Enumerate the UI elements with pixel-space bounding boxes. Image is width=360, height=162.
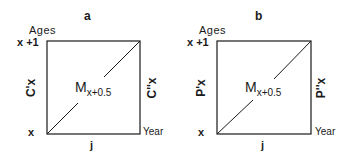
bottom-age-label: x <box>28 127 34 138</box>
center-label: Mx+0.5 <box>75 80 111 98</box>
left-side-label: C'x <box>25 79 37 97</box>
panel-a: a Ages x +1 x Year j Mx+0.5 C'x C''x <box>0 0 180 162</box>
right-side-label: P''x <box>315 78 327 98</box>
top-age-label: x +1 <box>187 37 209 48</box>
x-axis-label: Year <box>143 127 163 137</box>
x-axis-label: Year <box>315 127 335 137</box>
y-axis-label: Ages <box>199 25 226 36</box>
panel-b: b Ages x +1 x Year j Mx+0.5 P'x P''x <box>180 0 360 162</box>
bottom-age-label: x <box>198 127 204 138</box>
bottom-label: j <box>90 140 93 151</box>
center-label: Mx+0.5 <box>245 80 281 98</box>
y-axis-label: Ages <box>29 25 56 36</box>
left-side-label: P'x <box>195 79 207 97</box>
panel-title: a <box>84 10 91 22</box>
panel-title: b <box>255 10 262 22</box>
top-age-label: x +1 <box>17 37 39 48</box>
bottom-label: j <box>261 140 264 151</box>
right-side-label: C''x <box>146 77 158 98</box>
